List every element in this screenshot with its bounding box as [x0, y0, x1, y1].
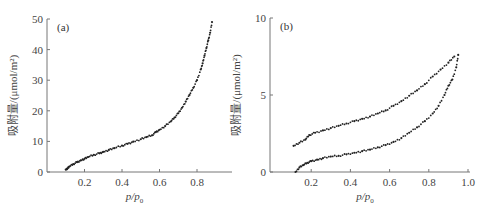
data-point [408, 95, 410, 97]
x-tick-label: 0.8 [190, 176, 204, 188]
data-point [377, 112, 379, 114]
data-point [456, 60, 458, 62]
y-tick-label: 10 [255, 12, 267, 24]
data-point [351, 120, 353, 122]
data-point [318, 131, 320, 133]
x-axis-title: p/p0 [125, 190, 144, 205]
data-point [194, 83, 196, 85]
y-axis-title: 吸附量/(μmol/m²) [229, 54, 243, 136]
data-point [433, 111, 435, 113]
data-point [416, 89, 418, 91]
data-point [203, 55, 205, 57]
data-point [202, 62, 204, 64]
data-point [385, 109, 387, 111]
data-point [424, 83, 426, 85]
data-point [402, 99, 404, 101]
data-point [369, 115, 371, 117]
data-point [383, 111, 385, 113]
data-point [338, 125, 340, 127]
data-point [402, 135, 404, 137]
y-tick-label: 5 [261, 89, 267, 101]
data-point [373, 147, 375, 149]
data-point [375, 147, 377, 149]
data-point [414, 128, 416, 130]
data-point [392, 105, 394, 107]
data-point [442, 67, 444, 69]
data-point [412, 128, 414, 130]
x-tick-label: 0.8 [422, 176, 436, 188]
data-point [207, 39, 209, 41]
data-point [439, 68, 441, 70]
data-point [342, 154, 344, 156]
x-axis-title: p/p0 [355, 190, 374, 205]
data-point [193, 86, 195, 88]
data-point [113, 147, 115, 149]
data-point [340, 124, 342, 126]
data-point [447, 62, 449, 64]
data-point [428, 79, 430, 81]
data-point [453, 55, 455, 57]
data-point [185, 101, 187, 103]
data-point [209, 34, 211, 36]
data-point [410, 93, 412, 95]
data-point [204, 53, 206, 55]
data-point [175, 116, 177, 118]
data-point [404, 97, 406, 99]
data-point [210, 30, 212, 32]
data-point [182, 106, 184, 108]
y-tick-label: 50 [32, 13, 44, 25]
data-point [357, 151, 359, 153]
data-point [397, 139, 399, 141]
data-point [422, 85, 424, 87]
data-point [338, 155, 340, 157]
data-point [132, 141, 134, 143]
data-point [436, 108, 438, 110]
data-point [177, 112, 179, 114]
data-point [330, 156, 332, 158]
data-point [328, 128, 330, 130]
panel-label: (a) [57, 21, 70, 34]
data-point [379, 147, 381, 149]
data-point [430, 77, 432, 79]
data-point [197, 76, 199, 78]
data-point [353, 152, 355, 154]
data-point [296, 170, 298, 172]
data-point [453, 73, 455, 75]
data-point [395, 103, 397, 105]
data-point [451, 79, 453, 81]
data-point [143, 138, 145, 140]
x-tick-label: 0.4 [344, 176, 358, 188]
data-point [361, 150, 363, 152]
data-point [430, 115, 432, 117]
data-point [371, 114, 373, 116]
y-tick-label: 10 [32, 135, 44, 147]
data-point [324, 156, 326, 158]
data-point [400, 100, 402, 102]
data-point [448, 84, 450, 86]
data-point [351, 152, 353, 154]
data-point [438, 105, 440, 107]
data-point [205, 49, 207, 51]
data-point [188, 94, 190, 96]
data-point [348, 123, 350, 125]
data-point [203, 59, 205, 61]
data-point [355, 119, 357, 121]
x-tick-label: 0.4 [115, 176, 129, 188]
data-point [326, 128, 328, 130]
data-point [418, 126, 420, 128]
data-point [301, 141, 303, 143]
data-point [344, 124, 346, 126]
data-point [371, 148, 373, 150]
data-point [432, 112, 434, 114]
data-point [450, 59, 452, 61]
data-point [420, 86, 422, 88]
data-point [175, 114, 177, 116]
data-point [391, 105, 393, 107]
data-point [330, 127, 332, 129]
data-point [211, 21, 213, 23]
x-tick-label: 0.6 [383, 176, 397, 188]
data-point [391, 142, 393, 144]
data-point [201, 65, 203, 67]
data-point [426, 82, 428, 84]
data-point [412, 93, 414, 95]
